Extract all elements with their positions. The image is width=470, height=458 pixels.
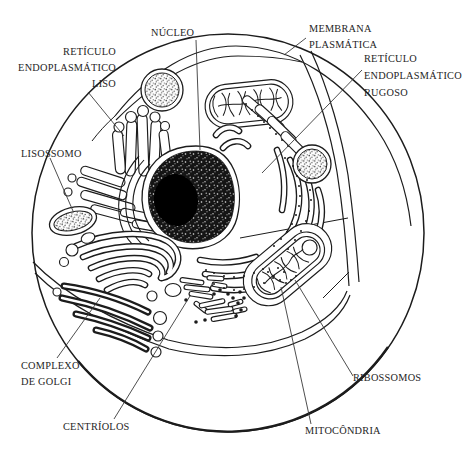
label-complexo-de-golgi: COMPLEXO DE GOLGI (21, 358, 80, 390)
label-nucleo: NÚCLEO (151, 25, 194, 41)
label-lisossomo: LISOSSOMO (21, 146, 82, 162)
lysosome-right (293, 145, 331, 183)
label-re-rugoso: RETÍCULO ENDOPLASMÁTICO RUGOSO (364, 50, 462, 101)
label-ribossomos: RIBOSSOMOS (353, 370, 421, 386)
label-centriolos: CENTRÍOLOS (63, 419, 130, 435)
label-re-liso: RETÍCULO ENDOPLASMÁTICO LISO (16, 44, 116, 92)
label-mitocondria: MITOCÔNDRIA (305, 423, 381, 439)
cell-diagram-figure: NÚCLEO MEMBRANA PLASMÁTICA RETÍCULO ENDO… (0, 0, 470, 458)
lysosome-top (141, 69, 183, 111)
label-membrana-plasmatica: MEMBRANA PLASMÁTICA (309, 21, 377, 53)
